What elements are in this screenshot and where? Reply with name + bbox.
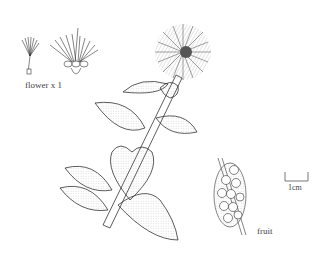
flower-head-icon bbox=[155, 24, 211, 80]
fruit-cluster-icon bbox=[214, 158, 246, 235]
single-flower-icon bbox=[22, 37, 39, 74]
flower-label: flower x 1 bbox=[25, 80, 62, 90]
scale-label: 1cm bbox=[288, 183, 302, 192]
flower-cluster-icon bbox=[50, 28, 98, 74]
botanical-illustration: flower x 1 fruit 1cm bbox=[0, 0, 329, 256]
leaves bbox=[60, 81, 197, 240]
illustration-drawing bbox=[0, 0, 329, 256]
fruit-label: fruit bbox=[257, 226, 273, 236]
scale-bar bbox=[285, 172, 308, 181]
